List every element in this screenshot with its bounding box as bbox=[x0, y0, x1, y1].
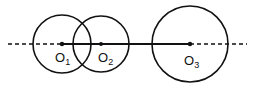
label-o2: O2 bbox=[98, 50, 113, 67]
center-point-o1 bbox=[60, 42, 64, 46]
label-o1: O1 bbox=[55, 50, 70, 67]
label-o3: O3 bbox=[184, 53, 199, 70]
center-point-o3 bbox=[188, 42, 192, 46]
center-point-o2 bbox=[99, 42, 103, 46]
circles-diagram: O1 O2 O3 bbox=[0, 0, 253, 90]
